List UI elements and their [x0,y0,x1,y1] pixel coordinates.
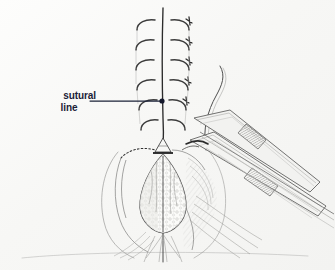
callout-label-line2: line [44,102,96,114]
callout-label-line1: sutural [63,90,96,101]
sutural-line-callout: sutural line [44,90,96,113]
callout-endpoint-dot [159,98,164,103]
figure-container: sutural line [0,0,335,270]
surgical-illustration [0,0,335,270]
